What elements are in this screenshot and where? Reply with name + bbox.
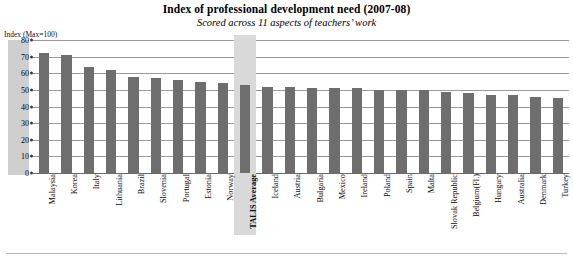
x-tick-label: Portugal [182,174,191,202]
x-tick-label: TALIS Average [249,174,258,229]
bar [396,90,406,173]
y-tick-label: 30 [8,119,29,128]
bar [151,78,161,173]
x-tick-label: Italy [92,174,101,189]
bar [39,53,49,173]
x-tick-label: Malaysia [48,174,57,204]
title-block: Index of professional development need (… [0,0,573,29]
x-tick-label: Spain [405,174,414,193]
bar [61,55,71,173]
x-tick-label: Slovenia [159,174,168,203]
x-tick-label: Malta [427,174,436,193]
y-tick-label: 70 [8,52,29,61]
x-tick-label: Slovak Republic [450,174,459,229]
y-tick-label: 60 [8,69,29,78]
x-tick-label: Denmark [539,174,548,205]
x-tick-label: Austria [293,174,302,198]
x-tick-label: Iceland [271,174,280,198]
chart-title: Index of professional development need (… [0,3,573,16]
bar [441,92,451,173]
x-tick-label: Bulgaria [316,174,325,203]
y-tick-label: 20 [8,135,29,144]
y-tick-label: 50 [8,85,29,94]
x-tick-label: Ireland [360,174,369,198]
y-tick-label: 40 [8,102,29,111]
bar [128,77,138,173]
chart-subtitle: Scored across 11 aspects of teachers’ wo… [0,16,573,29]
x-tick-label: Belgium(Fl.) [472,174,481,217]
bar [285,87,295,173]
x-axis-labels: MalaysiaKoreaItalyLithuaniaBrazilSloveni… [33,174,569,265]
bar [508,95,518,173]
bar [463,93,473,173]
bar [329,88,339,173]
bar [307,88,317,173]
bar [530,97,540,173]
x-tick-label: Lithuania [115,174,124,206]
bar [106,70,116,173]
x-tick-label: Poland [383,174,392,197]
bar [84,67,94,173]
x-tick-label: Australia [517,174,526,204]
bar [374,90,384,173]
x-tick-label: Hungary [494,174,503,203]
x-tick-label: Brazil [137,174,146,194]
bar [352,88,362,173]
x-tick-label: Estonia [204,174,213,199]
y-tick-label: 80 [8,36,29,45]
bar-series [33,40,569,173]
x-tick-label: Turkey [561,174,570,198]
bar [553,98,563,173]
bar [486,95,496,173]
x-tick-label: Korea [70,174,79,194]
x-tick-label: Mexico [338,174,347,199]
bar [262,87,272,173]
y-tick-label: 0 [8,169,29,178]
bar [240,85,250,173]
plot-area [33,40,569,173]
bar [419,90,429,173]
bar [195,82,205,173]
bar [173,80,183,173]
bar [218,83,228,173]
bar-chart: 80706050403020100 MalaysiaKoreaItalyLith… [0,40,573,240]
x-tick-label: Norway [226,174,235,201]
y-tick-label: 10 [8,152,29,161]
